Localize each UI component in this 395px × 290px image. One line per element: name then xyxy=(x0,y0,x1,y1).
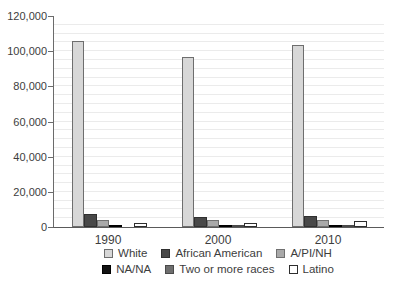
gridline xyxy=(54,112,384,113)
bar-chart-figure: 020,00040,00060,00080,000100,000120,000 … xyxy=(0,0,395,290)
gridline xyxy=(54,103,384,104)
legend-swatch-icon xyxy=(104,249,113,258)
gridline xyxy=(54,156,384,157)
y-axis-tick xyxy=(48,157,53,158)
x-axis-label-2010: 2010 xyxy=(273,233,383,247)
legend-swatch-icon xyxy=(165,265,174,274)
legend-swatch-icon xyxy=(102,265,111,274)
bar-na-na-2010 xyxy=(329,225,342,227)
gridline xyxy=(54,41,384,42)
gridline xyxy=(54,173,384,174)
legend-label: NA/NA xyxy=(116,263,151,275)
chart-legend: WhiteAfrican AmericanA/PI/NHNA/NATwo or … xyxy=(53,247,383,279)
gridline xyxy=(54,50,384,51)
y-axis-tick xyxy=(48,51,53,52)
gridline xyxy=(54,147,384,148)
x-axis-label-2000: 2000 xyxy=(163,233,273,247)
legend-label: Two or more races xyxy=(179,263,274,275)
gridline xyxy=(54,129,384,130)
gridline xyxy=(54,94,384,95)
bar-white-2000 xyxy=(182,57,195,227)
gridline xyxy=(54,33,384,34)
y-axis-tick xyxy=(48,227,53,228)
y-axis-label: 60,000 xyxy=(0,117,47,128)
legend-row: WhiteAfrican AmericanA/PI/NH xyxy=(53,247,383,259)
legend-swatch-icon xyxy=(161,249,170,258)
bar-latino-1990 xyxy=(134,223,147,227)
bar-a-pi-nh-2010 xyxy=(317,220,330,227)
bar-african-american-2010 xyxy=(304,216,317,227)
bar-two-or-more-races-2010 xyxy=(342,225,355,227)
bar-two-or-more-races-2000 xyxy=(232,225,245,227)
y-axis-tick xyxy=(48,192,53,193)
bar-african-american-1990 xyxy=(84,214,97,227)
bar-na-na-2000 xyxy=(219,225,232,227)
gridline xyxy=(54,208,384,209)
gridline xyxy=(54,77,384,78)
gridline xyxy=(54,191,384,192)
bar-white-2010 xyxy=(292,45,305,227)
bar-african-american-2000 xyxy=(194,217,207,227)
gridline xyxy=(54,59,384,60)
y-axis-label: 40,000 xyxy=(0,152,47,163)
y-axis-label: 20,000 xyxy=(0,187,47,198)
y-axis-label: 120,000 xyxy=(0,11,47,22)
legend-item-latino: Latino xyxy=(289,263,334,275)
gridline xyxy=(54,200,384,201)
legend-item-a-pi-nh: A/PI/NH xyxy=(276,247,332,259)
gridline xyxy=(54,121,384,122)
legend-swatch-icon xyxy=(276,249,285,258)
bar-na-na-1990 xyxy=(109,225,122,227)
legend-row: NA/NATwo or more racesLatino xyxy=(53,263,383,275)
gridline xyxy=(54,85,384,86)
bar-latino-2010 xyxy=(354,221,367,227)
legend-item-na-na: NA/NA xyxy=(102,263,151,275)
legend-swatch-icon xyxy=(289,265,298,274)
y-axis-tick xyxy=(48,16,53,17)
y-axis-label: 80,000 xyxy=(0,81,47,92)
gridline xyxy=(54,217,384,218)
gridline xyxy=(54,24,384,25)
legend-label: White xyxy=(118,247,147,259)
gridline xyxy=(54,138,384,139)
legend-item-african-american: African American xyxy=(161,247,262,259)
legend-item-two-or-more-races: Two or more races xyxy=(165,263,274,275)
legend-item-white: White xyxy=(104,247,147,259)
gridline xyxy=(54,68,384,69)
legend-label: African American xyxy=(175,247,262,259)
x-axis-label-1990: 1990 xyxy=(53,233,163,247)
gridline xyxy=(54,182,384,183)
bar-a-pi-nh-2000 xyxy=(207,220,220,227)
gridline xyxy=(54,165,384,166)
y-axis-tick xyxy=(48,86,53,87)
bar-latino-2000 xyxy=(244,223,257,227)
bar-white-1990 xyxy=(72,41,85,227)
y-axis-label: 0 xyxy=(0,222,47,233)
plot-area xyxy=(53,16,384,228)
legend-label: Latino xyxy=(303,263,334,275)
y-axis-label: 100,000 xyxy=(0,46,47,57)
legend-label: A/PI/NH xyxy=(290,247,332,259)
y-axis-tick xyxy=(48,122,53,123)
bar-a-pi-nh-1990 xyxy=(97,220,110,227)
